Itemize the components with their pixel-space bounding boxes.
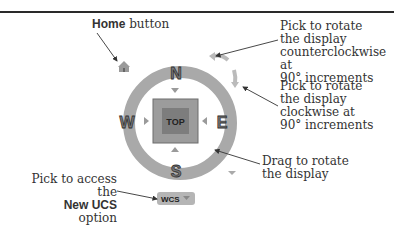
- viewcube-diagram: TOP N S E W WCS: [0, 0, 400, 226]
- compass-n: N: [170, 65, 182, 82]
- arrow-up-icon: [171, 147, 179, 152]
- rotate-cw-icon[interactable]: [231, 70, 239, 88]
- wcs-label: WCS: [161, 195, 180, 204]
- arrow-down-icon: [171, 88, 179, 93]
- wcs-button[interactable]: WCS: [157, 192, 195, 205]
- top-face[interactable]: TOP: [153, 99, 198, 143]
- compass-e: E: [217, 114, 228, 131]
- home-icon[interactable]: [118, 61, 130, 72]
- menu-chevron-icon[interactable]: [228, 171, 236, 175]
- arrow-right-icon: [144, 117, 149, 125]
- compass-s: S: [171, 163, 182, 180]
- arrow-left-icon: [202, 117, 207, 125]
- top-face-label: TOP: [166, 117, 184, 127]
- compass-w: W: [119, 114, 135, 131]
